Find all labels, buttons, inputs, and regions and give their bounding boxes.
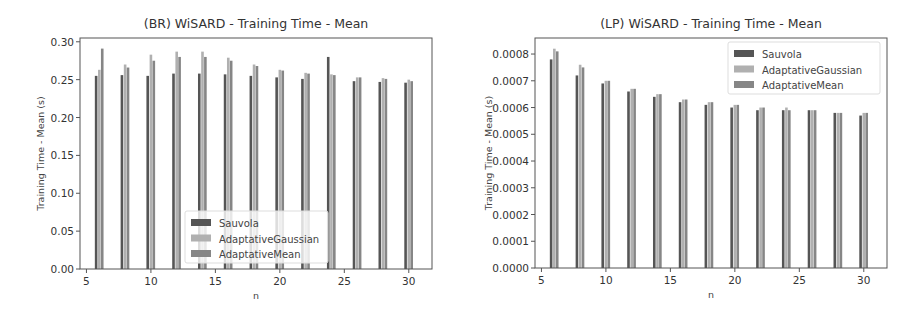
bar-sauvola	[859, 116, 862, 268]
br-chart-svg: (BR) WiSARD - Training Time - Mean0.000.…	[0, 0, 458, 322]
bar-sauvola	[627, 91, 630, 268]
bar-adaptativemean	[840, 113, 843, 268]
y-tick-label: 0.0008	[492, 48, 529, 60]
y-tick-label: 0.0003	[492, 182, 529, 194]
y-axis: 0.000.050.100.150.200.250.30	[51, 36, 80, 275]
bar-adaptativemean	[101, 49, 104, 269]
x-tick-label: 20	[728, 274, 741, 286]
bar-adaptativegaussian	[356, 77, 359, 269]
bar-sauvola	[653, 97, 656, 268]
x-tick-label: 10	[144, 275, 157, 287]
legend-label: Sauvola	[762, 49, 802, 60]
y-tick-label: 0.10	[51, 187, 74, 199]
chart-title: (LP) WiSARD - Training Time - Mean	[600, 16, 822, 31]
legend-label: AdaptativeGaussian	[219, 234, 319, 245]
y-axis: 0.00000.00010.00020.00030.00040.00050.00…	[492, 48, 535, 274]
bar-adaptativegaussian	[407, 80, 410, 269]
y-tick-label: 0.25	[51, 74, 74, 86]
x-tick-label: 5	[538, 274, 545, 286]
x-axis: 51015202530	[83, 269, 415, 287]
y-tick-label: 0.0005	[492, 128, 529, 140]
legend-swatch-adaptativegaussian	[191, 235, 211, 242]
x-axis-label: n	[253, 290, 259, 301]
bar-sauvola	[146, 76, 149, 269]
x-tick-label: 25	[793, 274, 806, 286]
legend-label: AdaptativeGaussian	[762, 65, 862, 76]
y-tick-label: 0.0001	[492, 235, 529, 247]
x-tick-label: 20	[273, 275, 286, 287]
bar-adaptativegaussian	[553, 49, 556, 268]
bar-sauvola	[705, 105, 708, 268]
bar-sauvola	[550, 59, 553, 268]
bar-adaptativemean	[633, 89, 636, 268]
x-tick-label: 30	[857, 274, 870, 286]
bar-adaptativemean	[333, 75, 336, 269]
bar-sauvola	[379, 82, 382, 269]
bar-adaptativegaussian	[708, 102, 711, 268]
bar-adaptativegaussian	[785, 108, 788, 268]
bar-adaptativegaussian	[837, 113, 840, 268]
bar-sauvola	[782, 110, 785, 268]
legend-label: AdaptativeMean	[762, 80, 844, 91]
bar-adaptativegaussian	[605, 81, 608, 268]
bar-adaptativemean	[178, 57, 181, 269]
y-tick-label: 0.0007	[492, 75, 529, 87]
bar-adaptativemean	[582, 67, 585, 268]
y-tick-label: 0.0000	[492, 262, 529, 274]
x-axis: 51015202530	[538, 268, 870, 286]
legend-label: Sauvola	[219, 218, 259, 229]
y-tick-label: 0.05	[51, 225, 74, 237]
bar-adaptativegaussian	[630, 89, 633, 268]
bar-adaptativemean	[736, 105, 739, 268]
bar-sauvola	[95, 76, 98, 269]
bar-sauvola	[121, 75, 124, 269]
bar-adaptativegaussian	[330, 74, 333, 269]
bar-sauvola	[756, 110, 759, 268]
x-tick-label: 30	[402, 275, 415, 287]
bar-adaptativegaussian	[656, 94, 659, 268]
bar-adaptativemean	[711, 102, 714, 268]
bar-adaptativemean	[410, 81, 413, 269]
bar-adaptativegaussian	[862, 113, 865, 268]
bar-adaptativegaussian	[734, 105, 737, 268]
bar-adaptativemean	[659, 94, 662, 268]
legend-swatch-adaptativemean	[191, 250, 211, 257]
x-tick-label: 25	[338, 275, 351, 287]
x-axis-label: n	[708, 289, 714, 300]
bar-adaptativemean	[127, 68, 130, 269]
bar-adaptativemean	[762, 108, 765, 268]
bar-sauvola	[808, 110, 811, 268]
legend-swatch-sauvola	[191, 219, 211, 226]
legend: SauvolaAdaptativeGaussianAdaptativeMean	[728, 42, 880, 94]
bar-adaptativegaussian	[759, 108, 762, 268]
y-tick-label: 0.20	[51, 112, 74, 124]
bar-sauvola	[353, 81, 356, 269]
chart-title: (BR) WiSARD - Training Time - Mean	[144, 16, 368, 31]
bar-adaptativemean	[865, 113, 868, 268]
x-tick-label: 15	[209, 275, 222, 287]
legend-swatch-adaptativegaussian	[734, 66, 754, 73]
x-tick-label: 15	[664, 274, 677, 286]
bar-adaptativemean	[153, 61, 156, 269]
y-tick-label: 0.0002	[492, 209, 529, 221]
bar-adaptativegaussian	[811, 110, 814, 268]
bar-adaptativemean	[359, 77, 362, 269]
y-axis-label: Training Time - Mean (s)	[35, 96, 46, 212]
lp-chart-svg: (LP) WiSARD - Training Time - Mean0.0000…	[458, 0, 916, 322]
legend: SauvolaAdaptativeGaussianAdaptativeMean	[185, 211, 328, 263]
bar-sauvola	[404, 83, 407, 269]
bar-adaptativemean	[385, 79, 388, 269]
bar-adaptativegaussian	[175, 52, 178, 269]
y-tick-label: 0.0004	[492, 155, 529, 167]
x-tick-label: 10	[599, 274, 612, 286]
y-tick-label: 0.30	[51, 36, 74, 48]
br-training-time-chart: (BR) WiSARD - Training Time - Mean0.000.…	[0, 0, 458, 322]
bar-adaptativegaussian	[124, 65, 127, 269]
bar-adaptativegaussian	[382, 78, 385, 269]
y-tick-label: 0.00	[51, 263, 74, 275]
y-tick-label: 0.15	[51, 149, 74, 161]
bar-adaptativemean	[556, 51, 559, 268]
legend-label: AdaptativeMean	[219, 249, 301, 260]
legend-swatch-sauvola	[734, 50, 754, 57]
bar-sauvola	[679, 102, 682, 268]
